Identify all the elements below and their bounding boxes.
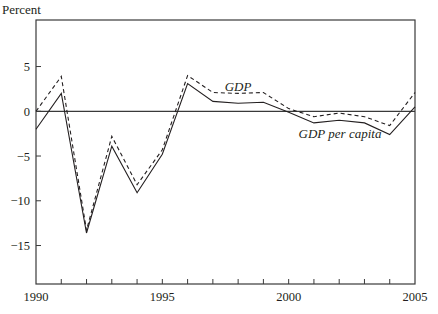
gdp-series-label: GDP — [225, 79, 252, 94]
series-lines — [36, 76, 415, 234]
x-tick-label: 1995 — [150, 290, 175, 304]
gdp-line — [36, 76, 415, 231]
y-tick-label: 0 — [24, 105, 30, 119]
gdp-per-capita-line — [36, 84, 415, 234]
y-tick-label: −5 — [17, 150, 30, 164]
gdp-per-capita-series-label: GDP per capita — [299, 126, 382, 141]
x-tick-label: 2005 — [403, 290, 428, 304]
y-tick-label: −10 — [10, 194, 30, 208]
line-chart: 50−5−10−15 1990199520002005 GDP GDP per … — [0, 0, 438, 314]
x-tick-label: 2000 — [276, 290, 301, 304]
y-tick-label: −15 — [10, 239, 30, 253]
x-tick-label: 1990 — [24, 290, 49, 304]
plot-frame — [36, 20, 415, 284]
x-axis-ticks: 1990199520002005 — [24, 279, 428, 304]
y-tick-label: 5 — [24, 60, 30, 74]
